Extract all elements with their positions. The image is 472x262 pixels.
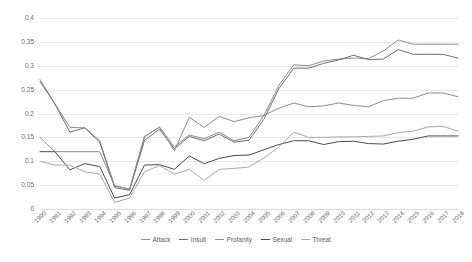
- y-axis-tick-label: 0.2: [25, 110, 34, 117]
- x-axis-tick-label: 2015: [406, 210, 420, 224]
- series-line-insult: [40, 50, 458, 191]
- legend-label: Sexual: [272, 236, 292, 243]
- y-axis-tick-label: 0.05: [21, 182, 34, 189]
- x-axis-tick-label: 2003: [227, 210, 241, 224]
- plot-area: [40, 18, 458, 209]
- x-axis-tick-label: 1995: [108, 210, 122, 224]
- x-axis-tick-label: 1999: [168, 210, 182, 224]
- x-axis-tick-label: 2012: [362, 210, 376, 224]
- legend-swatch-icon: [301, 239, 310, 240]
- y-axis-tick-label: 0.15: [21, 134, 34, 141]
- legend-label: Attack: [153, 236, 171, 243]
- x-axis-tick-label: 2010: [332, 210, 346, 224]
- x-axis-tick-label: 2005: [257, 210, 271, 224]
- x-axis-tick-label: 2013: [377, 210, 391, 224]
- x-axis-tick-label: 2004: [242, 210, 256, 224]
- line-chart: 00.050.10.150.20.250.30.350.4 1990199119…: [0, 0, 472, 262]
- x-axis-tick-label: 1996: [123, 210, 137, 224]
- legend-item-threat[interactable]: Threat: [301, 236, 331, 243]
- legend-item-attack[interactable]: Attack: [141, 236, 170, 243]
- legend-swatch-icon: [261, 239, 270, 240]
- x-axis-tick-label: 2017: [436, 210, 450, 224]
- x-axis-tick-label: 2009: [317, 210, 331, 224]
- legend-item-insult[interactable]: Insult: [179, 236, 206, 243]
- x-axis-tick-label: 2002: [212, 210, 226, 224]
- legend-label: Profanity: [227, 236, 252, 243]
- legend-item-profanity[interactable]: Profanity: [215, 236, 252, 243]
- y-axis-tick-label: 0.25: [21, 86, 34, 93]
- legend-label: Threat: [312, 236, 330, 243]
- x-axis-tick-label: 2000: [183, 210, 197, 224]
- x-axis-tick-label: 1991: [48, 210, 62, 224]
- y-axis-tick-label: 0.4: [25, 15, 34, 22]
- legend-swatch-icon: [179, 239, 188, 240]
- x-axis-tick-label: 1997: [138, 210, 152, 224]
- legend-swatch-icon: [141, 239, 150, 240]
- x-axis-tick-label: 2007: [287, 210, 301, 224]
- legend-item-sexual[interactable]: Sexual: [261, 236, 292, 243]
- y-axis-tick-label: 0.35: [21, 39, 34, 46]
- x-axis-tick-label: 2014: [392, 210, 406, 224]
- x-axis-tick-label: 1992: [63, 210, 77, 224]
- x-axis-tick-label: 1998: [153, 210, 167, 224]
- x-axis-tick-label: 2018: [451, 210, 465, 224]
- x-axis-tick-label: 1990: [33, 210, 47, 224]
- x-axis-tick-label: 1993: [78, 210, 92, 224]
- x-axis-tick-label: 2006: [272, 210, 286, 224]
- series-line-profanity: [40, 93, 458, 189]
- x-axis-tick-label: 2016: [421, 210, 435, 224]
- x-axis-tick-label: 2008: [302, 210, 316, 224]
- chart-legend: AttackInsultProfanitySexualThreat: [0, 236, 472, 243]
- series-lines: [40, 18, 458, 209]
- x-axis-tick-label: 2011: [347, 210, 361, 224]
- y-axis: 00.050.10.150.20.250.30.350.4: [0, 18, 34, 209]
- y-axis-tick-label: 0.1: [25, 158, 34, 165]
- y-axis-tick-label: 0: [30, 206, 34, 213]
- y-axis-tick-label: 0.3: [25, 63, 34, 70]
- x-axis-tick-label: 1994: [93, 210, 107, 224]
- legend-swatch-icon: [215, 239, 224, 240]
- x-axis-tick-label: 2001: [197, 210, 211, 224]
- legend-label: Insult: [191, 236, 206, 243]
